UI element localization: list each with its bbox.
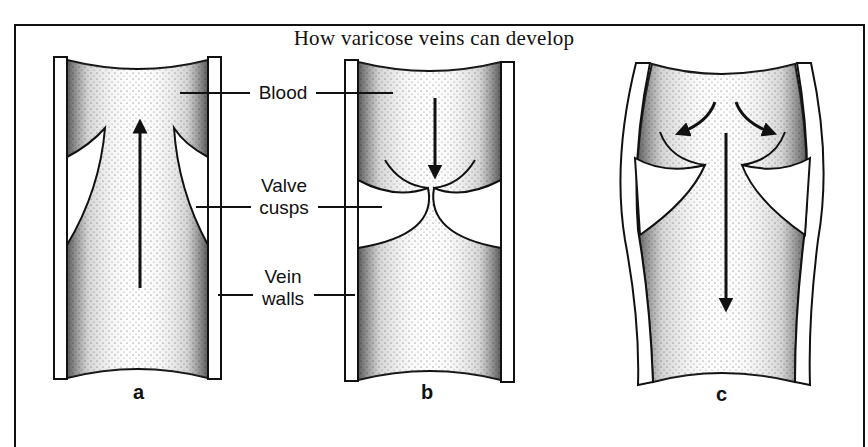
panel-label-c: c: [716, 383, 727, 406]
vein-wall-left: [345, 60, 358, 381]
panel-label-b: b: [421, 381, 433, 404]
panel-a-vein: [54, 57, 221, 379]
vein-diagram: [0, 0, 868, 447]
panel-c-vein: [620, 63, 823, 385]
label-blood: Blood: [252, 82, 314, 104]
label-valve-cusps-line2: cusps: [252, 197, 316, 219]
label-vein-walls-line2: walls: [252, 288, 314, 310]
vein-wall-left: [54, 57, 67, 379]
label-valve-cusps-line1: Valve: [252, 175, 316, 197]
vein-wall-right: [208, 57, 221, 379]
label-vein-walls-line1: Vein: [252, 266, 314, 288]
vein-wall-right: [501, 62, 514, 382]
panel-label-a: a: [133, 381, 144, 404]
panel-b-vein: [345, 60, 514, 382]
